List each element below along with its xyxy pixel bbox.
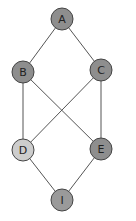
node-label: E [98, 143, 105, 156]
node-b: B [12, 61, 34, 83]
node-label: A [58, 13, 66, 26]
node-c: C [90, 59, 112, 81]
graph-diagram: ABCDEI [0, 0, 136, 221]
edges [23, 19, 101, 200]
node-label: D [19, 144, 27, 157]
node-label: B [19, 66, 27, 79]
node-d: D [12, 139, 34, 161]
node-label: I [60, 194, 63, 207]
node-i: I [51, 189, 73, 211]
node-e: E [90, 138, 112, 160]
node-a: A [51, 8, 73, 30]
node-label: C [97, 64, 105, 77]
